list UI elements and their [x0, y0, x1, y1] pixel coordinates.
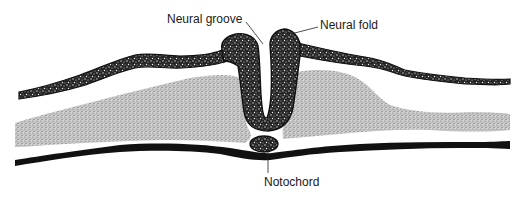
neural-fold-label: Neural fold: [320, 19, 378, 31]
notochord-label: Notochord: [264, 176, 319, 188]
notochord: [250, 136, 278, 152]
embryo-diagram: [0, 0, 530, 198]
neural-groove-label: Neural groove: [167, 13, 242, 25]
